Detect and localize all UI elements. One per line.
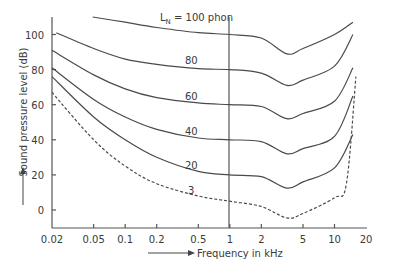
curve-label-20: 20 bbox=[185, 160, 198, 171]
y-tick-label: 20 bbox=[31, 170, 44, 181]
y-ticks: 020406080100 bbox=[25, 30, 56, 217]
curve-label-3: 3 bbox=[188, 185, 194, 196]
y-axis-label-group: Sound pressure level (dB) bbox=[18, 47, 29, 205]
x-axis-label: Frequency in kHz bbox=[197, 248, 283, 259]
curve-3-phon bbox=[52, 77, 356, 219]
y-tick-label: 60 bbox=[31, 100, 44, 111]
equal-loudness-chart: 020406080100 0.020.050.10.20.51251020 LN… bbox=[0, 0, 393, 274]
curve-40-phon bbox=[52, 68, 353, 154]
x-tick-label: 0.2 bbox=[149, 234, 165, 245]
axes bbox=[52, 17, 367, 228]
x-tick-label: 0.05 bbox=[83, 234, 105, 245]
y-tick-label: 80 bbox=[31, 65, 44, 76]
curves bbox=[52, 17, 356, 218]
curve-label-40: 40 bbox=[185, 126, 198, 137]
x-tick-label: 0.02 bbox=[41, 234, 63, 245]
y-axis-label: Sound pressure level (dB) bbox=[18, 47, 29, 176]
y-tick-label: 100 bbox=[25, 30, 44, 41]
curve-label-80: 80 bbox=[185, 55, 198, 66]
curve-label-100: LN = 100 phon bbox=[160, 12, 233, 26]
x-tick-label: 1 bbox=[227, 234, 233, 245]
y-tick-label: 0 bbox=[38, 205, 44, 216]
curve-label-60: 60 bbox=[185, 91, 198, 102]
curve-60-phon bbox=[52, 50, 353, 119]
x-tick-label: 2 bbox=[258, 234, 264, 245]
x-tick-label: 20 bbox=[360, 234, 373, 245]
x-tick-label: 0.5 bbox=[190, 234, 206, 245]
x-tick-label: 10 bbox=[328, 234, 341, 245]
curve-80-phon bbox=[56, 33, 353, 86]
x-axis-label-group: Frequency in kHz bbox=[148, 248, 283, 259]
x-tick-label: 5 bbox=[300, 234, 306, 245]
x-axis-arrowhead-icon bbox=[188, 250, 195, 256]
y-tick-label: 40 bbox=[31, 135, 44, 146]
x-ticks: 0.020.050.10.20.51251020 bbox=[41, 224, 373, 245]
curve-20-phon bbox=[52, 77, 353, 189]
x-tick-label: 0.1 bbox=[117, 234, 133, 245]
